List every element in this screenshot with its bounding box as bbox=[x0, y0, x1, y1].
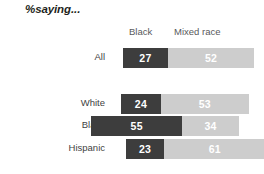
bar-value-black: 27 bbox=[139, 53, 151, 64]
bar-segment-black: 23 bbox=[126, 139, 164, 159]
bar-segment-black: 24 bbox=[121, 94, 161, 114]
bar-value-black: 23 bbox=[139, 144, 151, 155]
chart-row: Hispanic2361 bbox=[0, 139, 264, 159]
row-label: Black bbox=[0, 119, 105, 130]
bar-value-mixed-race: 52 bbox=[205, 53, 217, 64]
bar-value-mixed-race: 34 bbox=[204, 121, 216, 132]
bar-value-black: 55 bbox=[131, 121, 143, 132]
bar-track: 2453 bbox=[121, 94, 249, 114]
chart-row: White2453 bbox=[0, 94, 264, 114]
chart-row: All2752 bbox=[0, 48, 264, 68]
bar-value-mixed-race: 61 bbox=[209, 144, 221, 155]
bar-segment-mixed-race: 52 bbox=[168, 48, 254, 68]
page-title: %saying... bbox=[25, 3, 80, 15]
bar-segment-mixed-race: 61 bbox=[164, 139, 264, 159]
bar-value-mixed-race: 53 bbox=[199, 99, 211, 110]
bar-segment-black: 55 bbox=[91, 116, 182, 136]
bar-value-black: 24 bbox=[135, 99, 147, 110]
row-label: All bbox=[0, 51, 105, 62]
column-header-mixed-race: Mixed race bbox=[174, 26, 220, 37]
bar-track: 2752 bbox=[123, 48, 254, 68]
chart-row: Black5534 bbox=[0, 116, 264, 136]
row-label: Hispanic bbox=[0, 142, 105, 153]
stacked-bar-chart: %saying... Black Mixed race All2752White… bbox=[0, 0, 264, 174]
row-label: White bbox=[0, 97, 105, 108]
bar-segment-black: 27 bbox=[123, 48, 168, 68]
column-header-black: Black bbox=[129, 26, 152, 37]
bar-segment-mixed-race: 34 bbox=[182, 116, 238, 136]
bar-track: 5534 bbox=[91, 116, 239, 136]
bar-track: 2361 bbox=[126, 139, 264, 159]
bar-segment-mixed-race: 53 bbox=[161, 94, 249, 114]
